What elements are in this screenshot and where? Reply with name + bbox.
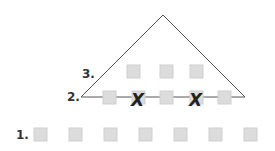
cross-mark-icon: X bbox=[130, 90, 145, 110]
square-item bbox=[69, 128, 82, 141]
row-2-label: 2. bbox=[67, 90, 80, 104]
row-3-squares bbox=[127, 65, 203, 78]
square-item bbox=[139, 128, 152, 141]
square-item bbox=[127, 65, 140, 78]
triangle-outline bbox=[81, 15, 245, 97]
pyramid-diagram: 3. 2. 1. XX bbox=[0, 0, 275, 151]
row-2-squares: XX bbox=[103, 90, 231, 110]
row-3-label: 3. bbox=[82, 67, 95, 81]
cross-mark-icon: X bbox=[188, 90, 203, 110]
square-item bbox=[218, 91, 231, 104]
row-1-squares bbox=[34, 128, 257, 141]
square-item bbox=[160, 65, 173, 78]
square-item bbox=[244, 128, 257, 141]
square-item bbox=[34, 128, 47, 141]
square-item bbox=[103, 91, 116, 104]
square-item bbox=[174, 128, 187, 141]
row-1-label: 1. bbox=[16, 128, 29, 142]
square-item bbox=[160, 91, 173, 104]
square-item bbox=[209, 128, 222, 141]
square-item bbox=[104, 128, 117, 141]
square-item bbox=[190, 65, 203, 78]
